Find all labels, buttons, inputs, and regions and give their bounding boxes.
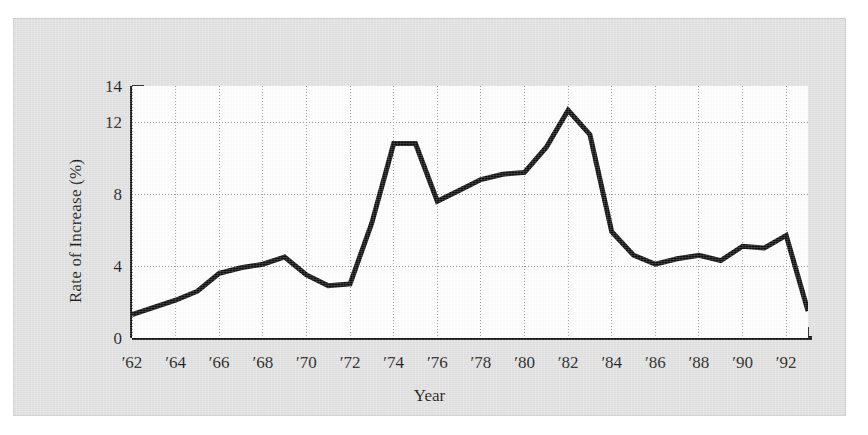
x-axis-title: Year bbox=[13, 386, 846, 406]
x-tick-label: ′76 bbox=[427, 354, 448, 371]
x-tick-label: ′72 bbox=[340, 354, 361, 371]
line-chart-svg bbox=[132, 86, 808, 338]
x-tick-label: ′92 bbox=[776, 354, 797, 371]
x-tick-label: ′64 bbox=[165, 354, 186, 371]
plot-area bbox=[132, 86, 808, 338]
x-tick-label: ′74 bbox=[383, 354, 404, 371]
x-tick-label: ′78 bbox=[471, 354, 492, 371]
x-tick-label: ′90 bbox=[732, 354, 753, 371]
x-tick-label: ′70 bbox=[296, 354, 317, 371]
x-tick-label: ′68 bbox=[252, 354, 273, 371]
figure-panel: Rate of Increase (%) 0481214 ′62′64′66′6… bbox=[13, 18, 846, 416]
x-tick-label: ′66 bbox=[209, 354, 230, 371]
x-tick-label: ′80 bbox=[514, 354, 535, 371]
figure-root: Rate of Increase (%) 0481214 ′62′64′66′6… bbox=[0, 0, 868, 435]
x-tick-label: ′62 bbox=[122, 354, 143, 371]
x-tick-label: ′82 bbox=[558, 354, 579, 371]
x-tick-label: ′88 bbox=[689, 354, 710, 371]
x-tick-label: ′84 bbox=[601, 354, 622, 371]
x-tick-label: ′86 bbox=[645, 354, 666, 371]
